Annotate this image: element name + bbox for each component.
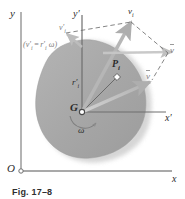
axis-label-y: y [10,8,15,19]
mean-velocity-letter: v [146,71,150,81]
vector-label-mean-velocity: v [146,70,150,81]
absolute-velocity-subscript: i [132,12,134,18]
dashed-parallelogram-right-upper [131,22,168,53]
point-label-mass-center: G [70,102,78,113]
vector-label-mean-velocity-translated: v [170,44,174,55]
relative-velocity-subscript: i [64,28,66,34]
axis-label-y-prime: y′ [73,9,80,19]
vector-label-angular-velocity: ω [78,126,84,135]
figure-canvas [0,0,185,199]
mass-center-marker [79,109,84,114]
translated-mean-velocity-vector [103,52,172,53]
paren-close: ) [54,40,57,49]
particle-subscript: i [118,64,120,72]
position-subscript: i [77,83,79,89]
axis-label-x: x [172,174,176,184]
vector-label-absolute-velocity: vi [128,7,134,18]
vector-label-relative-velocity: v′i [59,24,66,34]
mean-velocity-letter-translated: v [170,45,174,55]
dashed-parallelogram-right-lower [152,53,168,80]
point-label-particle: Pi [112,59,120,72]
annotation-relative-speed-relation: (v′i=r′iω) [23,41,57,51]
origin-marker [19,169,23,173]
axis-label-x-prime: x′ [165,113,172,123]
dashed-parallelogram-top-left [66,22,131,33]
vector-label-position: r′i [72,78,79,89]
axis-label-origin: O [7,163,15,174]
figure-caption: Fig. 17–8 [12,187,52,197]
